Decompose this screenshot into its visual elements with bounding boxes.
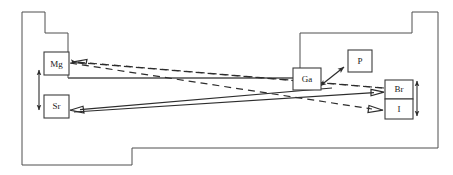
- node-mg[interactable]: Mg: [44, 52, 69, 75]
- connector-br-to-mg: [76, 62, 384, 88]
- enclosure-outline: [22, 12, 438, 165]
- schematic-diagram: Mg Sr Ga P Br I: [0, 0, 453, 175]
- connector-ga-to-sr: [80, 88, 332, 110]
- node-mg-label: Mg: [50, 59, 63, 69]
- node-p-label: P: [357, 56, 362, 66]
- node-sr-label: Sr: [52, 101, 60, 111]
- connector-br-to-mg-line: [78, 63, 382, 89]
- node-ga-label: Ga: [302, 74, 313, 84]
- node-br[interactable]: Br: [385, 80, 413, 99]
- node-br-label: Br: [395, 84, 404, 94]
- node-ga[interactable]: Ga: [293, 68, 321, 90]
- diagram-root: Mg Sr Ga P Br I: [0, 0, 453, 175]
- node-i[interactable]: I: [385, 99, 413, 119]
- node-sr[interactable]: Sr: [44, 95, 69, 118]
- connector-sr-to-br: [74, 93, 374, 112]
- node-p[interactable]: P: [348, 50, 372, 72]
- flow-connectors: [70, 60, 384, 114]
- node-i-label: I: [398, 104, 401, 114]
